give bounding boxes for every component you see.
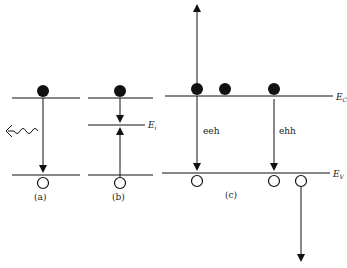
ec-label: EC bbox=[335, 92, 347, 103]
panel-a: (a) bbox=[6, 85, 80, 202]
panel-c-label: (c) bbox=[225, 190, 237, 200]
hole-icon bbox=[269, 176, 280, 187]
hole-icon bbox=[296, 176, 307, 187]
panel-c: eeh ehh EC EV (c) bbox=[162, 8, 347, 258]
electron-icon bbox=[219, 83, 231, 95]
electron-icon bbox=[37, 85, 49, 97]
ev-label: EV bbox=[332, 169, 345, 180]
eeh-label: eeh bbox=[203, 126, 220, 136]
trap-level-label: Ei bbox=[147, 120, 157, 131]
panel-b-label: (b) bbox=[112, 192, 125, 202]
hole-icon bbox=[38, 178, 49, 189]
band-diagram: (a) Ei (b) eeh ehh EC EV (c) bbox=[0, 0, 347, 268]
ehh-label: ehh bbox=[279, 126, 296, 136]
photon-wavy-arrow-icon bbox=[8, 129, 38, 134]
hole-icon bbox=[192, 176, 203, 187]
panel-a-label: (a) bbox=[34, 192, 46, 202]
panel-b: Ei (b) bbox=[88, 85, 157, 202]
hole-icon bbox=[115, 178, 126, 189]
electron-icon bbox=[114, 85, 126, 97]
electron-icon bbox=[268, 83, 280, 95]
